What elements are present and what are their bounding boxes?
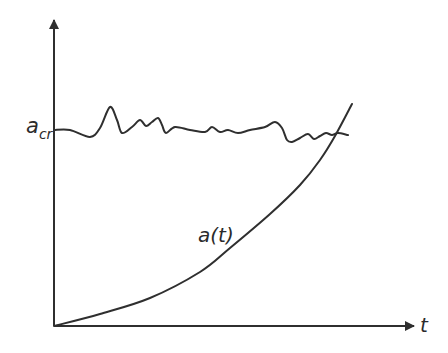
- acr-threshold-line: [54, 107, 348, 142]
- a-of-t-label: a(t): [198, 225, 234, 245]
- chart-plot: [0, 0, 448, 353]
- x-axis-label: t: [420, 315, 428, 335]
- a-of-t-curve: [54, 104, 352, 326]
- chart-figure: acr a(t) t: [0, 0, 448, 353]
- acr-label: acr: [26, 116, 52, 141]
